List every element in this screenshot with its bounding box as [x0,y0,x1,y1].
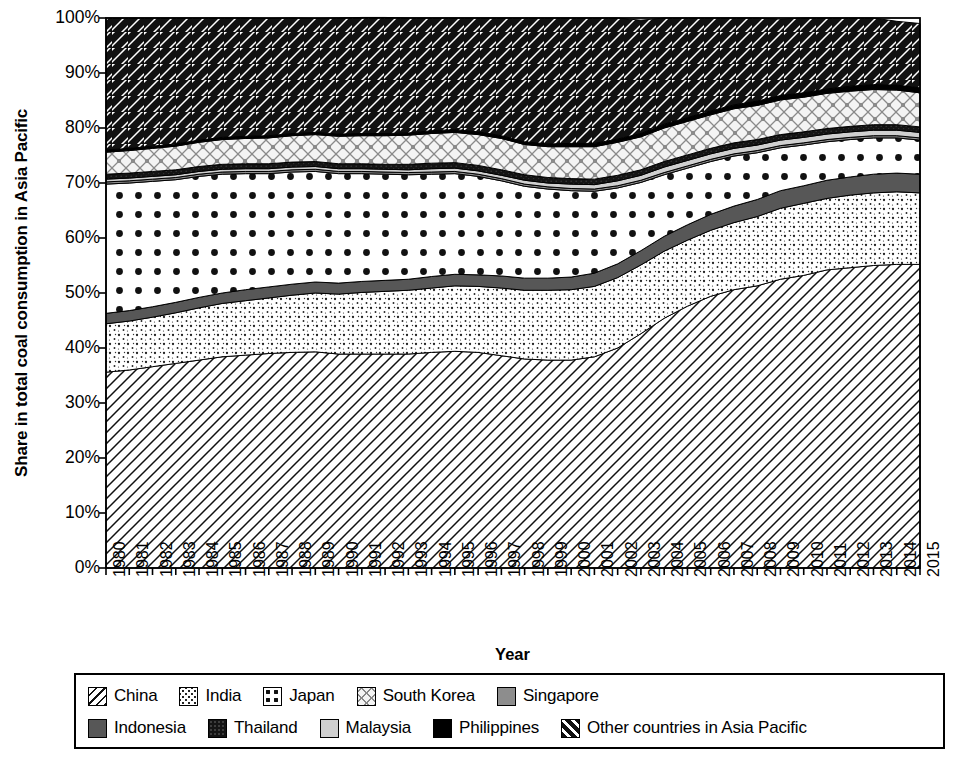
legend-item[interactable]: South Korea [357,686,475,706]
legend-row-2: IndonesiaThailandMalaysiaPhilippinesOthe… [76,712,943,744]
legend-swatch-icon [561,719,580,738]
legend-item[interactable]: Singapore [497,686,599,706]
legend-swatch-icon [357,687,376,706]
legend-item[interactable]: Japan [263,686,334,706]
legend-item[interactable]: Malaysia [320,718,411,738]
legend-label: South Korea [383,686,475,706]
legend-label: Philippines [459,718,539,738]
legend-label: Japan [289,686,334,706]
legend-label: Thailand [234,718,298,738]
legend-item[interactable]: Philippines [433,718,539,738]
legend-label: Singapore [523,686,599,706]
legend-item[interactable]: Thailand [208,718,298,738]
legend-item[interactable]: Indonesia [88,718,186,738]
legend-item[interactable]: China [88,686,157,706]
legend-label: Malaysia [346,718,411,738]
legend-swatch-icon [433,719,452,738]
legend-swatch-icon [497,687,516,706]
stacked-area-chart: Share in total coal consumption in Asia … [0,0,959,766]
legend-label: India [205,686,241,706]
legend-swatch-icon [263,687,282,706]
legend-swatch-icon [88,719,107,738]
legend-label: Other countries in Asia Pacific [587,718,807,738]
legend-swatch-icon [88,687,107,706]
legend-row-1: ChinaIndiaJapanSouth KoreaSingapore [76,680,943,712]
legend-label: Indonesia [114,718,186,738]
legend-item[interactable]: Other countries in Asia Pacific [561,718,807,738]
legend-swatch-icon [179,687,198,706]
legend-label: China [114,686,157,706]
legend-swatch-icon [208,719,227,738]
legend-swatch-icon [320,719,339,738]
x-axis-title: Year [105,645,920,664]
chart-legend: ChinaIndiaJapanSouth KoreaSingapore Indo… [74,673,945,749]
legend-item[interactable]: India [179,686,241,706]
